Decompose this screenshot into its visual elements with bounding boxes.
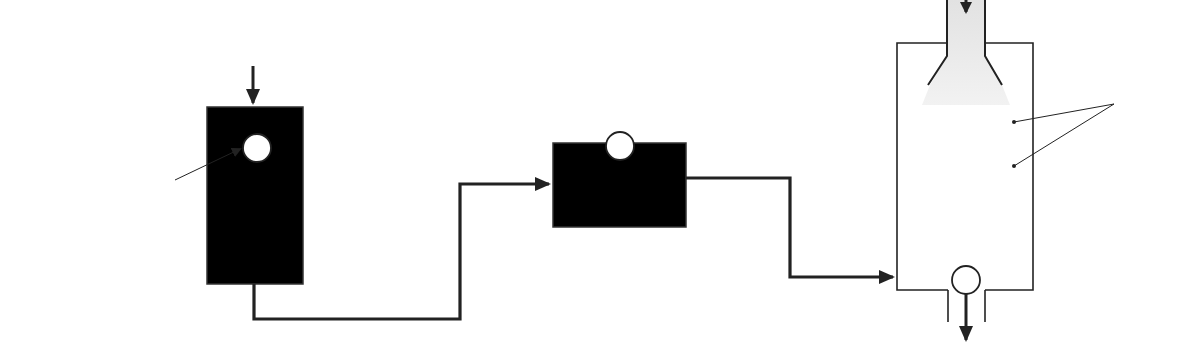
stage-1-marker — [243, 134, 271, 162]
gas-spray — [922, 0, 1010, 105]
pipe-cooler-to-tower — [686, 178, 893, 277]
beads-leader-dot-1 — [1012, 120, 1016, 124]
beads-leader-dot-2 — [1012, 164, 1016, 168]
stage-3-marker — [952, 266, 980, 294]
stage-2-marker — [606, 132, 634, 160]
nitric-acid-process-diagram — [0, 0, 1179, 360]
